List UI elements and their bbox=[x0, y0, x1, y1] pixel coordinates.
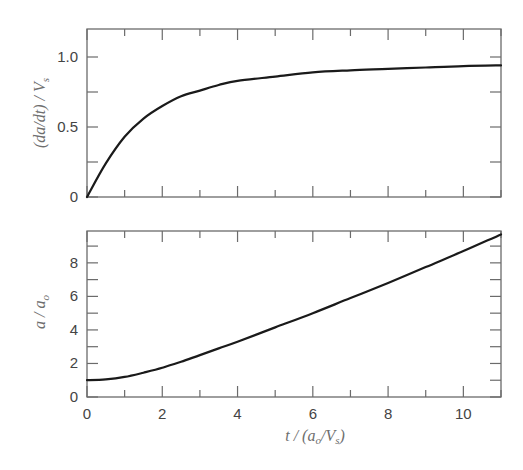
x-tick-label: 10 bbox=[455, 405, 472, 422]
y-tick-label: 0.5 bbox=[57, 118, 78, 135]
x-tick-label: 4 bbox=[233, 405, 241, 422]
y-tick-label: 8 bbox=[70, 254, 78, 271]
top-y-tick-labels: 00.51.0 bbox=[57, 48, 78, 205]
top-ticks bbox=[87, 29, 501, 197]
top-curve-dadt bbox=[87, 65, 501, 197]
y-tick-label: 1.0 bbox=[57, 48, 78, 65]
y-tick-label: 2 bbox=[70, 354, 78, 371]
y-tick-label: 6 bbox=[70, 287, 78, 304]
bottom-panel: 02468 0246810 a / ao t / (ao/Vs) bbox=[31, 231, 501, 446]
top-y-axis-label: (da/dt) / Vs bbox=[31, 78, 51, 148]
y-tick-label: 4 bbox=[70, 321, 78, 338]
y-tick-label: 0 bbox=[70, 188, 78, 205]
chart-figure: 00.51.0 (da/dt) / Vs 02468 0246810 a / a… bbox=[0, 0, 523, 470]
x-tick-label: 6 bbox=[309, 405, 317, 422]
x-axis-label: t / (ao/Vs) bbox=[285, 427, 345, 446]
x-tick-label: 8 bbox=[384, 405, 392, 422]
x-tick-label: 2 bbox=[158, 405, 166, 422]
x-tick-label: 0 bbox=[83, 405, 91, 422]
bottom-curve-a-ratio bbox=[87, 234, 501, 380]
bottom-y-axis-label: a / ao bbox=[31, 295, 51, 329]
top-plot-frame bbox=[87, 29, 501, 197]
top-panel: 00.51.0 (da/dt) / Vs bbox=[31, 29, 501, 205]
y-tick-label: 0 bbox=[70, 388, 78, 405]
bottom-y-tick-labels: 02468 bbox=[70, 254, 78, 405]
bottom-x-tick-labels: 0246810 bbox=[83, 405, 472, 422]
